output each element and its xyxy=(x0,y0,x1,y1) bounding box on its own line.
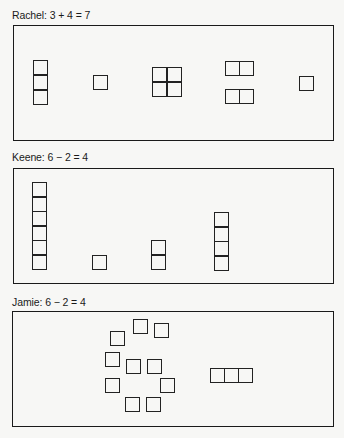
cube-vertical-stack-4 xyxy=(214,227,229,242)
cube-scattered-squares-10 xyxy=(126,359,141,374)
cube-vertical-stack-6 xyxy=(32,226,47,241)
cube-vertical-stack-3 xyxy=(33,90,48,105)
cube-scattered-squares-10 xyxy=(105,352,120,367)
cube-vertical-stack-6 xyxy=(32,211,47,226)
cube-square-2x2 xyxy=(152,82,167,97)
cube-horizontal-pair-top xyxy=(239,61,254,76)
cube-single-square xyxy=(299,76,314,91)
cube-horizontal-row-3 xyxy=(224,368,239,383)
cube-vertical-stack-3 xyxy=(33,60,48,75)
panel-keene xyxy=(13,168,334,284)
cube-scattered-squares-10 xyxy=(147,359,162,374)
cube-scattered-squares-10 xyxy=(110,331,125,346)
cube-horizontal-pair-bottom xyxy=(239,89,254,104)
cube-vertical-stack-6 xyxy=(32,240,47,255)
cube-single-square xyxy=(93,75,108,90)
cube-vertical-stack-4 xyxy=(214,212,229,227)
cube-horizontal-row-3 xyxy=(238,368,253,383)
cube-scattered-squares-10 xyxy=(105,378,120,393)
cube-horizontal-pair-bottom xyxy=(225,89,240,104)
cube-scattered-squares-10 xyxy=(160,378,175,393)
panel-keene-label: Keene: 6 − 2 = 4 xyxy=(12,151,88,163)
panel-jamie xyxy=(12,311,334,427)
cube-scattered-squares-10 xyxy=(154,323,169,338)
panel-rachel-label: Rachel: 3 + 4 = 7 xyxy=(12,9,90,21)
cube-scattered-squares-10 xyxy=(146,397,161,412)
panel-jamie-label: Jamie: 6 − 2 = 4 xyxy=(12,296,86,308)
cube-vertical-stack-4 xyxy=(214,256,229,271)
cube-vertical-stack-3 xyxy=(33,75,48,90)
cube-single-square xyxy=(92,255,107,270)
cube-vertical-stack-2 xyxy=(151,240,166,255)
cube-vertical-stack-6 xyxy=(32,182,47,197)
cube-horizontal-pair-top xyxy=(225,61,240,76)
cube-vertical-stack-2 xyxy=(151,255,166,270)
cube-vertical-stack-6 xyxy=(32,197,47,212)
cube-square-2x2 xyxy=(167,67,182,82)
cube-vertical-stack-4 xyxy=(214,241,229,256)
cube-horizontal-row-3 xyxy=(210,368,225,383)
cube-square-2x2 xyxy=(167,82,182,97)
cube-scattered-squares-10 xyxy=(125,397,140,412)
cube-vertical-stack-6 xyxy=(32,255,47,270)
cube-scattered-squares-10 xyxy=(133,319,148,334)
cube-square-2x2 xyxy=(152,67,167,82)
